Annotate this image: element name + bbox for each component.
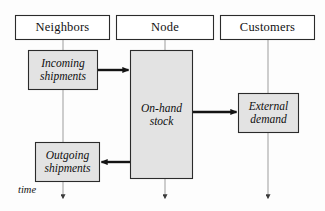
- process-label-line-2: shipments: [45, 162, 91, 175]
- process-label-line-1: External: [249, 100, 289, 113]
- process-label-external-demand: External demand: [238, 93, 299, 133]
- diagram-canvas: Neighbors Node Customers Incoming shipme…: [0, 0, 325, 211]
- time-axis-label: time: [18, 184, 36, 195]
- process-label-line-1: Incoming: [41, 57, 84, 70]
- process-label-on-hand-stock: On-hand stock: [130, 50, 193, 179]
- process-label-line-1: Outgoing: [46, 149, 89, 162]
- process-label-incoming-shipments: Incoming shipments: [28, 50, 98, 90]
- lane-header-label-neighbors: Neighbors: [15, 15, 110, 40]
- process-label-line-2: stock: [150, 115, 174, 128]
- lane-header-label-node: Node: [116, 15, 214, 40]
- process-label-line-2: demand: [250, 113, 286, 126]
- process-label-line-1: On-hand: [141, 102, 182, 115]
- lane-header-label-customers: Customers: [220, 15, 315, 40]
- process-label-line-2: shipments: [40, 70, 86, 83]
- process-label-outgoing-shipments: Outgoing shipments: [35, 142, 100, 182]
